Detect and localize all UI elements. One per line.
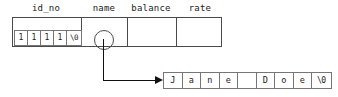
name-char-cell-7: e (294, 73, 313, 88)
pointer-arrowhead-icon (155, 76, 163, 84)
pointer-arrow-horizontal-segment (103, 80, 158, 81)
column-label-name: name (84, 3, 124, 14)
column-label-rate: rate (178, 3, 222, 14)
name-char-cell-5: D (257, 73, 276, 88)
column-label-balance: balance (128, 3, 174, 14)
name-char-cell-3: e (220, 73, 239, 88)
pointer-arrow-vertical-segment (103, 39, 104, 81)
struct-divider-2 (127, 17, 128, 47)
struct-pointer-diagram: id_no name balance rate 1111\0 Jane Doe\… (0, 0, 338, 97)
name-char-cell-0: J (164, 73, 183, 88)
name-char-cell-4 (238, 73, 257, 88)
name-string-char-array: Jane Doe\0 (163, 72, 332, 89)
struct-divider-3 (176, 17, 177, 47)
id-no-cell-2: 1 (41, 31, 54, 45)
name-char-cell-2: n (201, 73, 220, 88)
name-char-cell-8: \0 (312, 73, 331, 88)
name-char-cell-6: o (275, 73, 294, 88)
id-no-cell-3: 1 (54, 31, 67, 45)
id-no-cell-1: 1 (28, 31, 41, 45)
column-label-id-no: id_no (12, 3, 80, 14)
id-no-char-array: 1111\0 (14, 30, 82, 46)
id-no-cell-4: \0 (67, 31, 81, 45)
id-no-cell-0: 1 (15, 31, 28, 45)
name-char-cell-1: a (183, 73, 202, 88)
